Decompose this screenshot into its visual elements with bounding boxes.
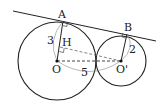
length-OA: 3 bbox=[47, 34, 54, 47]
arc-OO2-length bbox=[57, 61, 121, 72]
length-O2B: 2 bbox=[129, 43, 136, 56]
label-O: O bbox=[52, 63, 61, 76]
tangent-circles-diagram: A B H O O' 3 2 5 bbox=[0, 0, 167, 111]
label-B: B bbox=[124, 21, 132, 34]
segment-HO2-dashed bbox=[60, 47, 121, 61]
label-A: A bbox=[57, 8, 67, 21]
label-O-prime: O' bbox=[116, 63, 128, 76]
label-H: H bbox=[62, 36, 72, 49]
length-OO2: 5 bbox=[81, 66, 88, 79]
common-tangent-line bbox=[13, 11, 156, 41]
